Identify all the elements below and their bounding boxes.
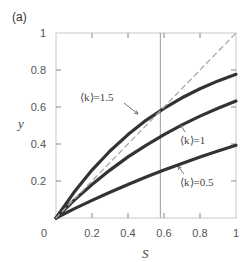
x-tick-label: 1 — [233, 227, 239, 239]
y-tick-label: 0.8 — [31, 64, 46, 76]
annotation-label: ⟨k⟩=1.5 — [80, 91, 114, 103]
annotation-arrow — [124, 103, 138, 114]
x-axis-label: S — [142, 246, 149, 261]
y-tick-label: 0.4 — [31, 138, 46, 150]
y-tick-label: 0.2 — [31, 175, 46, 187]
x-tick-label: 0 — [41, 227, 47, 239]
x-tick-label: 0.6 — [156, 227, 171, 239]
line-chart: 00.20.40.60.810.20.40.60.81 ⟨k⟩=1.5⟨k⟩=1… — [0, 0, 251, 262]
annotation-label: ⟨k⟩=1 — [180, 134, 205, 146]
y-axis-label: y — [16, 116, 24, 131]
y-tick-label: 0.6 — [31, 101, 46, 113]
x-tick-label: 0.4 — [120, 227, 135, 239]
data-lines — [56, 33, 236, 218]
y-tick-label: 1 — [40, 27, 46, 39]
x-tick-label: 0.2 — [84, 227, 99, 239]
x-tick-label: 0.8 — [192, 227, 207, 239]
diagonal-dashed-line — [56, 33, 236, 218]
annotation-label: ⟨k⟩=0.5 — [180, 176, 214, 188]
